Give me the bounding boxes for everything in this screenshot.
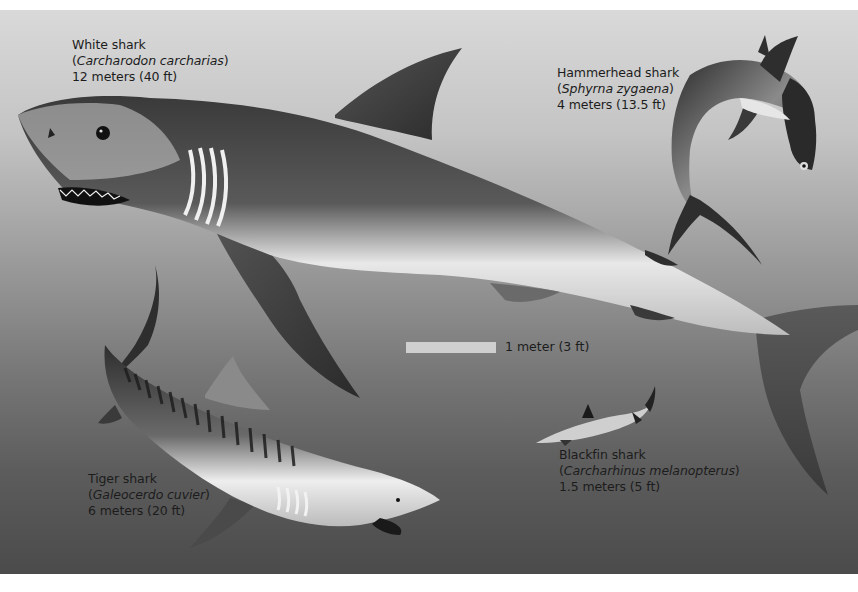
blackfin-shark-scientific-name: (Carcharhinus melanopterus): [559, 463, 740, 479]
hammerhead-shark-size: 4 meters (13.5 ft): [557, 97, 679, 113]
tiger-shark-label: Tiger shark (Galeocerdo cuvier) 6 meters…: [88, 471, 210, 519]
hammerhead-shark-figure: [668, 35, 816, 265]
hammerhead-shark-common-name: Hammerhead shark: [557, 65, 679, 81]
blackfin-shark-figure: [536, 386, 655, 446]
white-shark-common-name: White shark: [72, 37, 229, 53]
hammerhead-shark-label: Hammerhead shark (Sphyrna zygaena) 4 met…: [557, 65, 679, 113]
blackfin-shark-label: Blackfin shark (Carcharhinus melanopteru…: [559, 447, 740, 495]
illustration-canvas: White shark (Carcharodon carcharias) 12 …: [0, 10, 858, 574]
tiger-shark-size: 6 meters (20 ft): [88, 503, 210, 519]
scale-label: 1 meter (3 ft): [505, 339, 589, 354]
blackfin-shark-size: 1.5 meters (5 ft): [559, 479, 740, 495]
tiger-shark-scientific-name: (Galeocerdo cuvier): [88, 487, 210, 503]
white-shark-scientific-name: (Carcharodon carcharias): [72, 53, 229, 69]
hammerhead-shark-scientific-name: (Sphyrna zygaena): [557, 81, 679, 97]
tiger-shark-common-name: Tiger shark: [88, 471, 210, 487]
white-shark-size: 12 meters (40 ft): [72, 69, 229, 85]
white-shark-label: White shark (Carcharodon carcharias) 12 …: [72, 37, 229, 85]
scale-bar: [406, 342, 496, 353]
blackfin-shark-common-name: Blackfin shark: [559, 447, 740, 463]
